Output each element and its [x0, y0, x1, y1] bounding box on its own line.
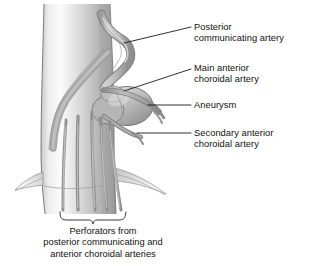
callout-line: Aneurysm: [194, 100, 236, 111]
callout-secondary-anterior-choroidal-artery: Secondary anterior choroidal artery: [194, 128, 273, 149]
caption-line: posterior communicating and: [0, 237, 206, 248]
caption-line: Perforators from: [0, 226, 206, 237]
anatomy-figure: Posterior communicating artery Main ante…: [0, 0, 320, 266]
callout-line: choroidal artery: [194, 74, 259, 85]
callout-posterior-communicating-artery: Posterior communicating artery: [194, 22, 284, 43]
callout-main-anterior-choroidal-artery: Main anterior choroidal artery: [194, 63, 259, 84]
leader-posterior-communicating-artery: [124, 27, 191, 43]
leader-main-anterior-choroidal-artery: [124, 69, 191, 91]
callout-line: Posterior: [194, 22, 284, 33]
callout-line: choroidal artery: [194, 139, 273, 150]
callout-line: Secondary anterior: [194, 128, 273, 139]
callout-line: Main anterior: [194, 63, 259, 74]
caption-line: anterior choroidal arteries: [0, 249, 206, 260]
callout-aneurysm: Aneurysm: [194, 100, 236, 111]
perforators-caption: Perforators from posterior communicating…: [0, 226, 206, 260]
callout-line: communicating artery: [194, 33, 284, 44]
